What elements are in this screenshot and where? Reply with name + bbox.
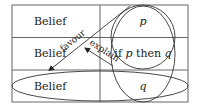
var-q: q bbox=[139, 80, 146, 93]
favour-label: favour bbox=[58, 27, 88, 53]
row-3-belief-label: Belief bbox=[34, 80, 67, 93]
row-2-conditional: if p then q bbox=[114, 47, 171, 60]
row-3-proposition-q: q bbox=[139, 80, 146, 93]
var-p: p bbox=[125, 47, 132, 60]
then-word: then bbox=[133, 47, 165, 60]
row-1-proposition-p: p bbox=[139, 15, 146, 28]
belief-diagram: Belief Belief Belief p if p then q q fav… bbox=[0, 0, 198, 110]
explain-arrow: explain bbox=[85, 37, 121, 66]
var-p: p bbox=[139, 15, 146, 28]
row-1-belief-label: Belief bbox=[34, 15, 67, 28]
diagram-canvas: Belief Belief Belief p if p then q q fav… bbox=[0, 0, 198, 110]
